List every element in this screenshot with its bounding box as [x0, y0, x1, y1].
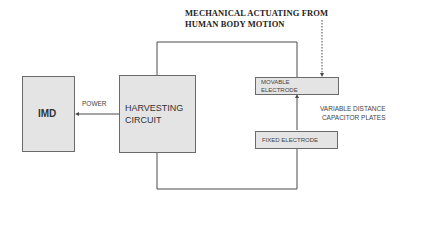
imd-label: IMD [38, 108, 56, 119]
capacitor-line2: CAPACITOR PLATES [320, 113, 386, 122]
imd-box: IMD [22, 76, 75, 152]
capacitor-line1: VARIABLE DISTANCE [320, 104, 386, 113]
harvesting-circuit-box: HARVESTING CIRCUIT [119, 75, 196, 153]
movable-electrode-box: MOVABLE ELECTRODE [255, 77, 339, 95]
movable-electrode-label: MOVABLE ELECTRODE [261, 79, 298, 94]
capacitor-plates-label: VARIABLE DISTANCE CAPACITOR PLATES [320, 104, 386, 122]
movable-line2: ELECTRODE [261, 87, 298, 95]
movable-line1: MOVABLE [261, 79, 298, 87]
power-label: POWER [82, 100, 107, 107]
fixed-electrode-box: FIXED ELECTRODE [255, 131, 338, 149]
harvesting-line2: CIRCUIT [125, 114, 183, 126]
harvesting-line1: HARVESTING [125, 102, 183, 114]
fixed-electrode-label: FIXED ELECTRODE [262, 137, 318, 143]
harvesting-circuit-label: HARVESTING CIRCUIT [125, 102, 183, 126]
